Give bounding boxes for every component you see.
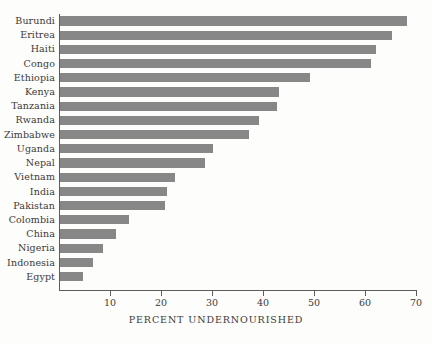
category-label: Haiti xyxy=(31,42,55,56)
bar xyxy=(60,130,249,139)
y-axis-line xyxy=(59,14,60,291)
x-tick xyxy=(263,291,264,296)
bar xyxy=(60,187,167,196)
x-tick xyxy=(416,291,417,296)
category-label: Eritrea xyxy=(20,28,55,42)
plot-area xyxy=(60,14,417,290)
bar-row xyxy=(60,241,417,255)
bar-row xyxy=(60,42,417,56)
category-label: China xyxy=(26,227,55,241)
x-tick-label: 60 xyxy=(359,297,371,308)
bar-row xyxy=(60,99,417,113)
bar-row xyxy=(60,85,417,99)
bar xyxy=(60,272,83,281)
bar xyxy=(60,258,93,267)
x-tick-label: 70 xyxy=(410,297,422,308)
bar-row xyxy=(60,270,417,284)
x-tick xyxy=(314,291,315,296)
category-label: Pakistan xyxy=(13,199,55,213)
bar-row xyxy=(60,199,417,213)
category-label: Burundi xyxy=(15,14,55,28)
bar xyxy=(60,215,129,224)
bar-row xyxy=(60,156,417,170)
bar-row xyxy=(60,113,417,127)
bar xyxy=(60,31,392,40)
bar-row xyxy=(60,142,417,156)
bar xyxy=(60,73,310,82)
bar-row xyxy=(60,57,417,71)
bar xyxy=(60,45,376,54)
category-label: Congo xyxy=(24,57,55,71)
bar-row xyxy=(60,227,417,241)
category-label: India xyxy=(30,185,55,199)
category-label: Vietnam xyxy=(14,170,55,184)
category-axis-labels: BurundiEritreaHaitiCongoEthiopiaKenyaTan… xyxy=(0,14,55,290)
bar-row xyxy=(60,71,417,85)
bar-row xyxy=(60,14,417,28)
bar xyxy=(60,173,175,182)
bar xyxy=(60,144,213,153)
bar xyxy=(60,116,259,125)
bar xyxy=(60,244,103,253)
bar-row xyxy=(60,184,417,198)
category-label: Colombia xyxy=(9,213,55,227)
x-tick xyxy=(161,291,162,296)
bar xyxy=(60,87,279,96)
category-label: Kenya xyxy=(25,85,55,99)
x-axis-line xyxy=(59,290,417,291)
category-label: Rwanda xyxy=(16,113,55,127)
x-tick-label: 30 xyxy=(206,297,218,308)
category-label: Ethiopia xyxy=(14,71,55,85)
bar xyxy=(60,102,277,111)
bar xyxy=(60,59,371,68)
category-label: Uganda xyxy=(17,142,55,156)
category-label: Indonesia xyxy=(7,256,55,270)
bar-row xyxy=(60,28,417,42)
x-tick xyxy=(365,291,366,296)
bar-row xyxy=(60,213,417,227)
x-tick-label: 40 xyxy=(257,297,269,308)
x-axis-title: PERCENT UNDERNOURISHED xyxy=(0,314,432,325)
bar-row xyxy=(60,255,417,269)
x-tick-label: 50 xyxy=(308,297,320,308)
category-label: Egypt xyxy=(26,270,55,284)
x-tick-label: 20 xyxy=(155,297,167,308)
bar xyxy=(60,16,407,25)
category-label: Tanzania xyxy=(11,99,55,113)
category-label: Nigeria xyxy=(18,241,55,255)
bar xyxy=(60,229,116,238)
category-label: Zimbabwe xyxy=(4,128,55,142)
category-label: Nepal xyxy=(26,156,55,170)
bar xyxy=(60,158,205,167)
x-tick-label: 10 xyxy=(104,297,116,308)
bar xyxy=(60,201,165,210)
bar-row xyxy=(60,170,417,184)
x-tick xyxy=(110,291,111,296)
bar-row xyxy=(60,128,417,142)
bar-chart: BurundiEritreaHaitiCongoEthiopiaKenyaTan… xyxy=(0,0,432,344)
x-tick xyxy=(212,291,213,296)
